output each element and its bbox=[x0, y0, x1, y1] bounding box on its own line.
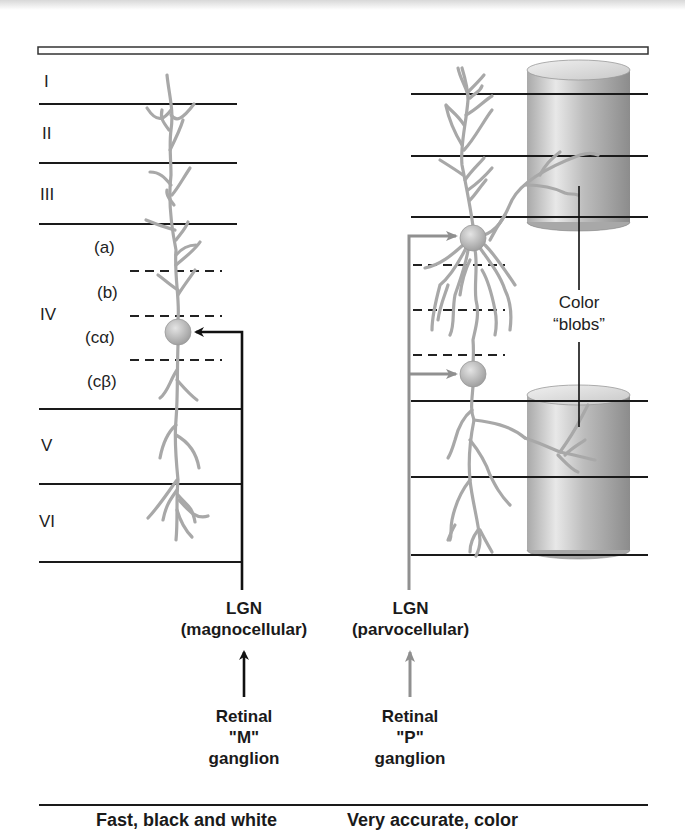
layer-label-iii: III bbox=[40, 185, 54, 205]
color-blobs-label-line2: “blobs” bbox=[548, 314, 610, 336]
sublayer-label-a: (a) bbox=[94, 238, 115, 258]
lgn-magno-label: LGN (magnocellular) bbox=[164, 598, 324, 640]
layer-label-i: I bbox=[44, 72, 49, 92]
layer-label-ii: II bbox=[42, 124, 51, 144]
magno-neuron-dendrites bbox=[146, 75, 208, 540]
retina-parvo-line1: Retinal bbox=[360, 706, 460, 727]
lgn-parvo-subtitle: (parvocellular) bbox=[333, 619, 488, 640]
retina-magno-line1: Retinal bbox=[194, 706, 294, 727]
parvo-neuron-lower-soma bbox=[460, 361, 486, 387]
sublayer-label-b: (b) bbox=[97, 283, 118, 303]
layer-label-iv: IV bbox=[40, 305, 56, 325]
retina-parvo-label: Retinal "P" ganglion bbox=[360, 706, 460, 769]
sublayer-label-calpha: (cα) bbox=[85, 328, 115, 348]
retina-magno-label: Retinal "M" ganglion bbox=[194, 706, 294, 769]
retina-magno-line3: ganglion bbox=[194, 748, 294, 769]
retina-magno-line2: "M" bbox=[194, 727, 294, 748]
magno-input-path bbox=[196, 332, 242, 590]
sublayer-label-cbeta: (cβ) bbox=[87, 372, 117, 392]
color-blobs-label: Color “blobs” bbox=[548, 292, 610, 336]
parvo-caption: Very accurate, color bbox=[347, 810, 518, 831]
parvo-neuron-upper-soma bbox=[460, 225, 486, 251]
lgn-magno-title: LGN bbox=[164, 598, 324, 619]
lgn-parvo-label: LGN (parvocellular) bbox=[333, 598, 488, 640]
cortex-diagram bbox=[0, 0, 685, 836]
lgn-magno-subtitle: (magnocellular) bbox=[164, 619, 324, 640]
layer-label-vi: VI bbox=[39, 512, 55, 532]
color-blobs-label-line1: Color bbox=[548, 292, 610, 314]
magno-caption: Fast, black and white bbox=[96, 810, 277, 831]
layer-label-v: V bbox=[41, 436, 52, 456]
lgn-parvo-title: LGN bbox=[333, 598, 488, 619]
top-bar bbox=[38, 47, 648, 54]
magno-neuron-soma bbox=[165, 319, 191, 345]
retina-parvo-line3: ganglion bbox=[360, 748, 460, 769]
retina-parvo-line2: "P" bbox=[360, 727, 460, 748]
